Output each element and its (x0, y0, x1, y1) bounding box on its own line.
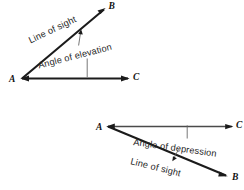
geometry-figure: A B C Line of sight Angle of elevation (0, 0, 244, 190)
depression-arrowhead-c (225, 124, 233, 129)
elevation-label-c: C (133, 72, 140, 82)
depression-label-a: A (95, 122, 102, 132)
elevation-line-of-sight-group: Line of sight (27, 14, 78, 45)
depression-label-c: C (236, 120, 243, 130)
depression-arrowhead-b (218, 172, 228, 177)
figure-canvas: A B C Line of sight Angle of elevation (0, 0, 244, 190)
elevation-diagram-group: A B C Line of sight Angle of elevation (8, 1, 140, 85)
elevation-label-a: A (8, 74, 15, 84)
depression-diagram-group: A C B Angle of depression Line of sight (95, 120, 243, 182)
depression-label-b: B (231, 172, 238, 182)
elevation-arrowhead-c (121, 76, 130, 82)
elevation-label-b: B (108, 1, 115, 11)
elevation-annotation-line-of-sight: Line of sight (27, 14, 78, 45)
